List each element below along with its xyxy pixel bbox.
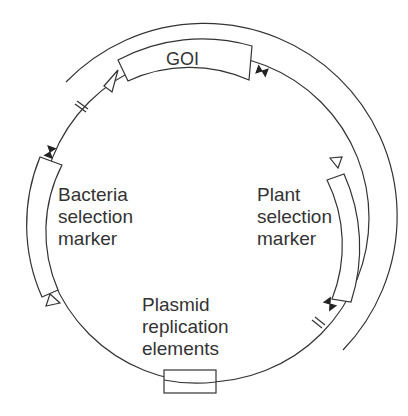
goi-label: GOI bbox=[166, 48, 199, 70]
bacteria-marker-label: Bacteria selection marker bbox=[58, 184, 133, 250]
plasmid-diagram: GOI Bacteria selection marker Plant sele… bbox=[0, 0, 408, 416]
replication-label-line2: replication bbox=[142, 316, 229, 338]
promoter-bacteria-icon bbox=[46, 294, 60, 306]
replication-label-line1: Plasmid bbox=[142, 294, 229, 316]
plant-label-line3: marker bbox=[257, 228, 332, 250]
bacteria-marker-box bbox=[27, 157, 62, 297]
break-mark-right-icon bbox=[312, 317, 325, 328]
plant-label-line1: Plant bbox=[257, 184, 332, 206]
plant-label-line2: selection bbox=[257, 206, 332, 228]
replication-label-line3: elements bbox=[142, 338, 229, 360]
terminator-bacteria-icon bbox=[45, 146, 56, 158]
promoter-plant-icon bbox=[330, 157, 342, 168]
replication-label: Plasmid replication elements bbox=[142, 294, 229, 360]
terminator-goi-icon bbox=[256, 66, 268, 77]
bacteria-label-line1: Bacteria bbox=[58, 184, 133, 206]
bacteria-label-line3: marker bbox=[58, 228, 133, 250]
plant-marker-label: Plant selection marker bbox=[257, 184, 332, 250]
bacteria-label-line2: selection bbox=[58, 206, 133, 228]
